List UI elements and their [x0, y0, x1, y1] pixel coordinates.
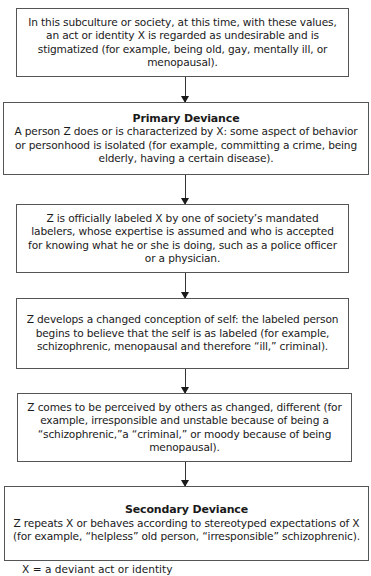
- flow-box-perceived-by-others: Z comes to be perceived by others as cha…: [17, 393, 352, 462]
- box-text: Z is officially labeled X by one of soci…: [23, 212, 342, 266]
- arrow-down-icon: [185, 175, 186, 204]
- arrow-down-icon: [185, 77, 186, 102]
- arrow-down-icon: [185, 273, 186, 298]
- flow-box-self-conception: Z develops a changed conception of self:…: [16, 298, 349, 369]
- box-text: A person Z does or is characterized by X…: [10, 125, 362, 165]
- arrow-down-icon: [185, 462, 186, 486]
- flow-box-primary-deviance: Primary Deviance A person Z does or is c…: [3, 102, 369, 175]
- box-text: Z comes to be perceived by others as cha…: [24, 401, 345, 455]
- footnote-symbol: X: [22, 563, 29, 575]
- flow-box-secondary-deviance: Secondary Deviance Z repeats X or behave…: [4, 486, 369, 561]
- flow-box-stigmatization: In this subculture or society, at this t…: [16, 8, 349, 77]
- box-text: In this subculture or society, at this t…: [23, 16, 342, 70]
- box-title: Secondary Deviance: [125, 503, 248, 517]
- footnote-connector: =: [33, 563, 42, 575]
- box-title: Primary Deviance: [133, 112, 240, 126]
- flow-box-official-labeling: Z is officially labeled X by one of soci…: [16, 204, 349, 273]
- box-text: Z develops a changed conception of self:…: [23, 313, 342, 353]
- arrow-down-icon: [185, 369, 186, 393]
- footnote-definition: a deviant act or identity: [45, 563, 173, 575]
- box-text: Z repeats X or behaves according to ster…: [11, 517, 362, 544]
- footnote-legend: X = a deviant act or identity: [22, 563, 172, 576]
